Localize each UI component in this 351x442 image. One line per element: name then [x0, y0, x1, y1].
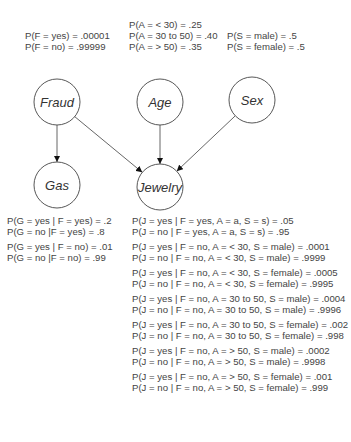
prob-line: P(J = no | F = no, A = < 30, S = female)…	[132, 278, 348, 289]
cpt-group: P(J = yes | F = no, A = 30 to 50, S = fe…	[132, 319, 348, 341]
node-jewelry: Jewelry	[137, 164, 184, 210]
prob-line: P(F = no) = .99999	[25, 41, 110, 52]
prob-line: P(G = yes | F = yes) = .2	[7, 215, 113, 226]
prob-line: P(F = yes) = .00001	[25, 30, 110, 41]
prob-line: P(J = yes | F = no, A = 30 to 50, S = ma…	[132, 293, 348, 304]
prob-line: P(J = no | F = no, A = 30 to 50, S = mal…	[132, 304, 348, 315]
prob-line: P(J = no | F = no, A = > 50, S = female)…	[132, 382, 348, 393]
node-label: Fraud	[40, 95, 75, 110]
node-fraud: Fraud	[34, 79, 80, 125]
prob-line: P(A = < 30) = .25	[129, 19, 218, 30]
cpt-group: P(J = yes | F = no, A = > 50, S = male) …	[132, 345, 348, 367]
edges	[57, 116, 235, 173]
cpt-group: P(G = yes | F = no) = .01 P(G = no |F = …	[7, 241, 113, 263]
node-label: Age	[147, 95, 171, 110]
prob-line: P(J = no | F = no, A = 30 to 50, S = fem…	[132, 330, 348, 341]
prob-line: P(J = yes | F = no, A = > 50, S = female…	[132, 371, 348, 382]
prob-line: P(J = yes | F = yes, A = a, S = s) = .05	[132, 215, 348, 226]
cpt-group: P(J = yes | F = no, A = 30 to 50, S = ma…	[132, 293, 348, 315]
prob-line: P(A = 30 to 50) = .40	[129, 30, 218, 41]
cpt-group: P(J = yes | F = no, A = > 50, S = female…	[132, 371, 348, 393]
prob-line: P(G = no |F = yes) = .8	[7, 226, 113, 237]
node-label: Jewelry	[137, 180, 184, 195]
fraud-prior-table: P(F = yes) = .00001 P(F = no) = .99999	[25, 30, 110, 52]
node-sex: Sex	[229, 77, 275, 123]
prob-line: P(J = yes | F = no, A = 30 to 50, S = fe…	[132, 319, 348, 330]
edge-sex-to-jewelry	[177, 116, 236, 171]
cpt-group: P(J = yes | F = yes, A = a, S = s) = .05…	[132, 215, 348, 237]
cpt-group: P(G = yes | F = yes) = .2 P(G = no |F = …	[7, 215, 113, 237]
prob-line: P(J = yes | F = no, A = > 50, S = male) …	[132, 345, 348, 356]
prob-line: P(J = no | F = no, A = > 50, S = male) =…	[132, 356, 348, 367]
edge-fraud-to-jewelry	[75, 117, 143, 173]
cpt-group: P(J = yes | F = no, A = < 30, S = male) …	[132, 241, 348, 263]
prob-line: P(A = > 50) = .35	[129, 41, 218, 52]
node-label: Sex	[241, 93, 264, 108]
gas-cpt: P(G = yes | F = yes) = .2 P(G = no |F = …	[7, 215, 113, 263]
prob-line: P(G = yes | F = no) = .01	[7, 241, 113, 252]
prob-line: P(J = yes | F = no, A = < 30, S = female…	[132, 267, 348, 278]
prob-line: P(J = yes | F = no, A = < 30, S = male) …	[132, 241, 348, 252]
node-label: Gas	[45, 178, 69, 193]
node-age: Age	[137, 79, 183, 125]
prob-line: P(J = no | F = no, A = < 30, S = male) =…	[132, 252, 348, 263]
prob-line: P(S = male) = .5	[227, 30, 305, 41]
prob-line: P(J = no | F = yes, A = a, S = s) = .95	[132, 226, 348, 237]
cpt-group: P(J = yes | F = no, A = < 30, S = female…	[132, 267, 348, 289]
node-gas: Gas	[34, 162, 80, 208]
sex-prior-table: P(S = male) = .5 P(S = female) = .5	[227, 30, 305, 52]
jewelry-cpt: P(J = yes | F = yes, A = a, S = s) = .05…	[132, 215, 348, 393]
age-prior-table: P(A = < 30) = .25 P(A = 30 to 50) = .40 …	[129, 19, 218, 52]
prob-line: P(S = female) = .5	[227, 41, 305, 52]
nodes: FraudAgeSexGasJewelry	[34, 77, 275, 210]
prob-line: P(G = no |F = no) = .99	[7, 252, 113, 263]
